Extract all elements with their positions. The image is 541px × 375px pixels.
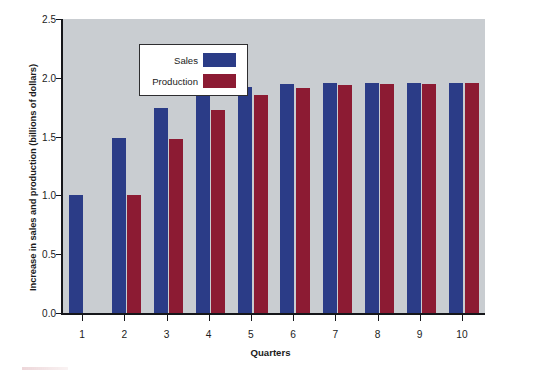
x-tick-label: 9 [400,329,440,340]
bar-sales-q3 [154,108,168,313]
legend-item-production: Production [140,71,247,91]
plot-area: Sales Production [61,19,485,315]
y-tick-label: 2.0 [16,72,56,83]
x-tick-mark [335,313,336,321]
figure: Increase in sales and production (billio… [0,0,541,375]
bar-sales-q2 [112,138,126,313]
y-tick-label: 1.5 [16,131,56,142]
x-tick-label: 8 [358,329,398,340]
y-axis-tick-labels: 0.00.51.01.52.02.5 [12,19,56,313]
bar-sales-q8 [365,83,379,313]
x-tick-label: 10 [442,329,482,340]
bar-sales-q10 [449,83,463,313]
x-tick-mark [378,313,379,321]
bar-sales-q6 [280,84,294,313]
x-tick-mark [167,313,168,321]
x-tick-label: 2 [104,329,144,340]
bar-production-q4 [211,110,225,313]
bar-production-q2 [127,195,141,313]
x-tick-label: 5 [231,329,271,340]
x-axis-tick-labels: 12345678910 [61,313,485,343]
x-tick-mark [209,313,210,321]
y-tick-label: 2.5 [16,14,56,25]
legend-swatch-sales [203,53,236,67]
bar-production-q9 [422,84,436,313]
y-tick-label: 1.0 [16,190,56,201]
x-tick-mark [293,313,294,321]
bar-production-q3 [169,139,183,313]
bar-sales-q7 [323,83,337,313]
legend: Sales Production [139,44,248,96]
legend-swatch-production [203,74,236,88]
x-tick-mark [251,313,252,321]
bar-sales-q5 [238,87,252,313]
x-tick-mark [420,313,421,321]
x-tick-label: 3 [147,329,187,340]
y-tick-label: 0.5 [16,249,56,260]
bar-sales-q9 [407,83,421,313]
x-tick-mark [82,313,83,321]
bar-sales-q4 [196,94,210,313]
scan-artifact [22,367,68,370]
bar-production-q7 [338,85,352,313]
legend-label-sales: Sales [140,55,203,66]
x-tick-mark [124,313,125,321]
x-tick-label: 4 [189,329,229,340]
x-axis-title: Quarters [58,347,483,358]
x-tick-label: 1 [62,329,102,340]
bar-sales-q1 [69,195,83,313]
bar-production-q10 [465,83,479,313]
x-tick-label: 6 [273,329,313,340]
legend-label-production: Production [140,76,203,87]
x-tick-mark [462,313,463,321]
bar-production-q5 [254,95,268,313]
y-tick-label: 0.0 [16,308,56,319]
bar-production-q6 [296,88,310,313]
bar-production-q8 [380,84,394,313]
x-tick-label: 7 [315,329,355,340]
legend-item-sales: Sales [140,50,247,70]
